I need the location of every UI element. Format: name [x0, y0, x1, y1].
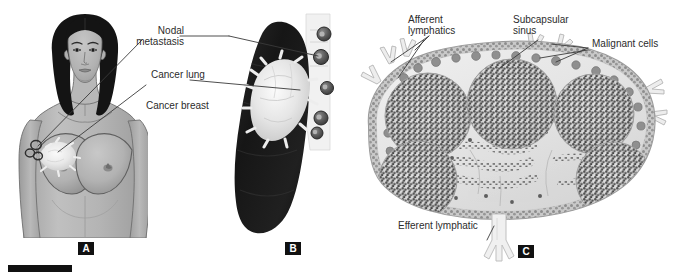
panel-b-artwork	[235, 14, 334, 233]
label-subcapsular-sinus-line1: Subcapsular	[513, 14, 569, 25]
label-afferent-lymphatics-line1: Afferent	[408, 14, 443, 25]
label-cancer-lung: Cancer lung	[151, 69, 205, 80]
figure-artwork	[0, 0, 673, 275]
label-afferent-lymphatics-line2: lymphatics	[408, 25, 455, 36]
label-efferent-lymphatic: Efferent lymphatic	[398, 220, 478, 231]
panel-a-artwork	[19, 14, 151, 238]
figure-container: Nodal metastasis Cancer lung Cancer brea…	[0, 0, 673, 275]
label-malignant-cells: Malignant cells	[592, 38, 658, 49]
label-nodal-metastasis-line1: Nodal	[142, 25, 184, 36]
scale-bar	[8, 265, 72, 272]
panel-tag-a: A	[78, 242, 94, 255]
panel-tag-c: C	[518, 245, 534, 258]
label-cancer-breast: Cancer breast	[146, 100, 209, 111]
label-nodal-metastasis-line2: metastasis	[118, 36, 184, 47]
panel-tag-b: B	[285, 242, 301, 255]
label-subcapsular-sinus-line2: sinus	[513, 25, 536, 36]
